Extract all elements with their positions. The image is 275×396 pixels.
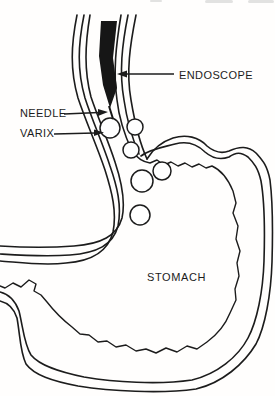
esophagus-wall-right-outer — [129, 15, 147, 159]
varix-label: VARIX — [20, 127, 54, 139]
needle-label: NEEDLE — [20, 107, 66, 119]
medical-illustration: ENDOSCOPE NEEDLE VARIX STOMACH — [0, 0, 275, 396]
varix-bump — [130, 205, 150, 225]
stomach-label: STOMACH — [147, 271, 206, 283]
endoscope-label: ENDOSCOPE — [179, 69, 253, 81]
varix-arrow — [54, 133, 95, 134]
varix-bump — [127, 119, 143, 135]
endoscope-shaft — [99, 21, 117, 108]
line-art — [0, 0, 275, 396]
injection-needle — [109, 106, 113, 119]
varix-bump — [131, 170, 153, 192]
esophagus-wall-left-outer — [0, 15, 114, 264]
varix-bump — [153, 162, 171, 180]
varix-bump — [123, 142, 139, 158]
needle-arrowhead — [98, 109, 108, 116]
varix-bump-target — [100, 118, 120, 138]
needle-arrow — [64, 113, 99, 115]
